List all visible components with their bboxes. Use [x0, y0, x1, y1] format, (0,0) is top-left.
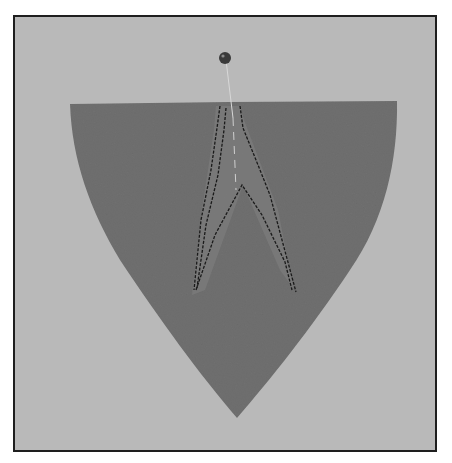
felt-photo — [0, 0, 452, 463]
